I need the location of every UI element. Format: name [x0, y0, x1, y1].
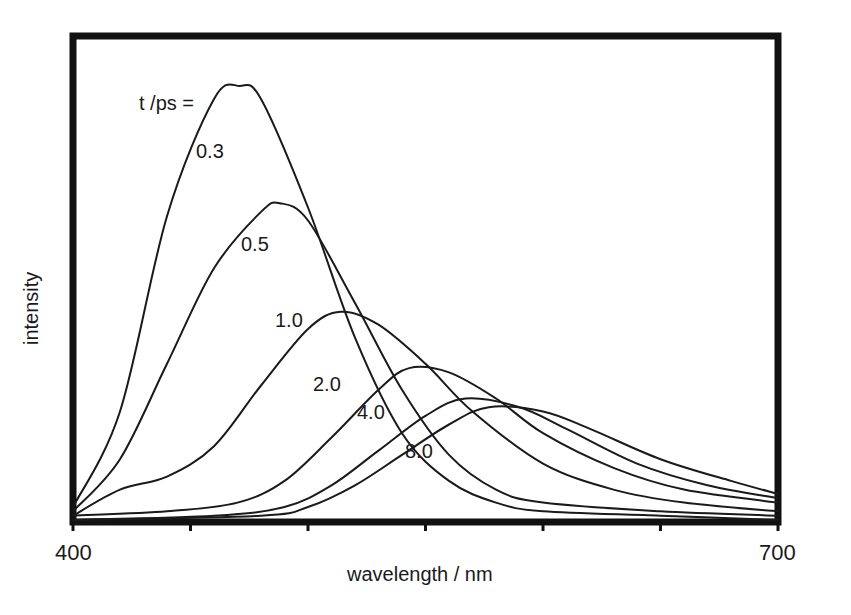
- curve-label-0.3: 0.3: [196, 140, 224, 163]
- spectra-chart: [0, 0, 851, 615]
- x-tick-700: 700: [759, 540, 796, 566]
- y-axis-title: intensity: [20, 272, 43, 345]
- curve-t-8.0: [73, 406, 778, 520]
- curve-label-1.0: 1.0: [275, 309, 303, 332]
- x-axis-title: wavelength / nm: [347, 563, 493, 586]
- curve-label-8.0: 8.0: [405, 440, 433, 463]
- curve-t-1.0: [73, 312, 778, 516]
- curve-label-0.5: 0.5: [241, 233, 269, 256]
- curve-label-2.0: 2.0: [313, 373, 341, 396]
- curve-label-4.0: 4.0: [357, 401, 385, 424]
- x-tick-400: 400: [55, 540, 92, 566]
- legend-title: t /ps =: [139, 92, 194, 115]
- curve-t-0.5: [73, 202, 778, 515]
